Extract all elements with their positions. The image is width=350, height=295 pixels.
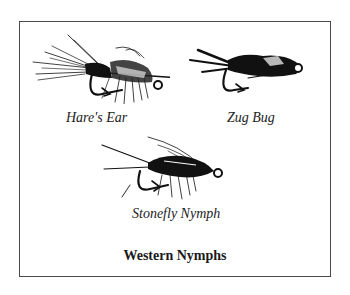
stonefly-nymph-label: Stonefly Nymph <box>132 206 220 222</box>
zug-bug-label: Zug Bug <box>227 110 275 126</box>
hares-ear-label: Hare's Ear <box>66 110 127 126</box>
zug-bug-fly-icon <box>188 48 308 98</box>
hares-ear-fly-icon <box>30 32 170 104</box>
figure-title: Western Nymphs <box>0 248 350 264</box>
stonefly-nymph-fly-icon <box>100 135 230 205</box>
